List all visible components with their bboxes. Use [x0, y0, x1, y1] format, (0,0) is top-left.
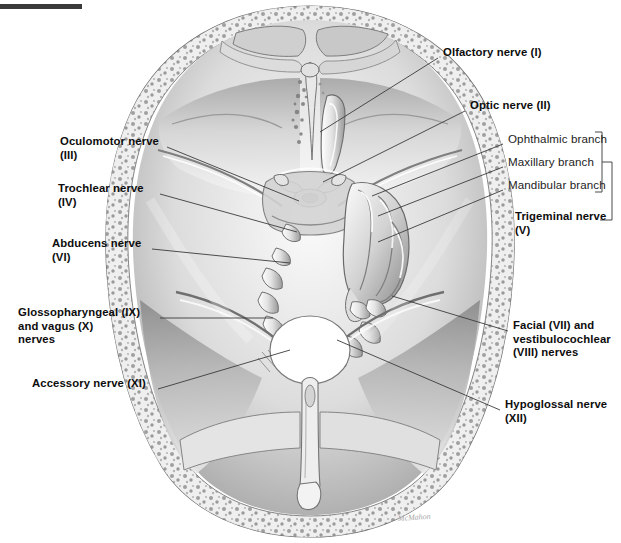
label-trochlear-nerve: Trochlear nerve (IV)	[58, 182, 144, 209]
label-ophthalmic-branch: Ophthalmic branch	[508, 132, 607, 146]
nerve-stubs-right	[326, 300, 386, 369]
leader-ophthalmic	[372, 144, 503, 196]
label-facial-vestibulocochlear-nerves: Facial (VII) and vestibulocochlear (VIII…	[513, 319, 611, 360]
olfactory-nerve-structure	[321, 95, 345, 175]
leader-facial	[392, 296, 508, 331]
foramen-magnum	[270, 316, 350, 384]
label-oculomotor-nerve: Oculomotor nerve (III)	[60, 135, 159, 162]
label-olfactory-nerve: Olfactory nerve (I)	[443, 46, 542, 60]
leader-maxillary	[378, 167, 503, 216]
label-maxillary-branch: Maxillary branch	[508, 155, 594, 169]
sella-turcica	[263, 169, 358, 236]
artist-signature: McMahon	[397, 512, 431, 523]
leader-olfactory	[320, 58, 438, 132]
petrous-ridges	[176, 292, 444, 372]
posterior-cranial-fossa	[140, 300, 480, 474]
trigeminal-ganglion	[343, 183, 409, 322]
crista-galli-cribriform	[292, 62, 325, 160]
header-rule	[0, 4, 82, 9]
frontal-sinuses	[220, 26, 400, 74]
leader-abducens	[152, 249, 290, 263]
label-trigeminal-nerve: Trigeminal nerve (V)	[515, 210, 606, 237]
leader-lines-layer	[0, 0, 621, 543]
label-glossopharyngeal-vagus-nerves: Glossopharyngeal (IX) and vagus (X) nerv…	[18, 306, 140, 347]
leader-accessory	[158, 350, 290, 389]
leader-trochlear	[160, 194, 297, 232]
anterior-cranial-fossa	[158, 78, 462, 212]
leader-hypoglossal	[337, 340, 500, 410]
occipital-crest	[297, 378, 321, 510]
label-hypoglossal-nerve: Hypoglossal nerve (XII)	[505, 398, 607, 425]
label-abducens-nerve: Abducens nerve (VI)	[52, 237, 141, 264]
figure-canvas: McMahon Olfactory nerve (I) Optic nerve …	[0, 0, 621, 543]
label-optic-nerve: Optic nerve (II)	[470, 99, 551, 113]
nerve-stubs-left	[258, 224, 300, 361]
optic-nerve-structure	[280, 182, 340, 208]
skull-base-illustration: McMahon	[0, 0, 621, 543]
cranial-cavity	[133, 20, 487, 515]
leader-oculomotor	[167, 147, 299, 201]
label-accessory-nerve: Accessory nerve (XI)	[32, 377, 146, 391]
leader-optic	[323, 111, 465, 182]
skull-outline	[106, 6, 514, 537]
leader-mandibular	[378, 190, 503, 242]
label-mandibular-branch: Mandibular branch	[508, 178, 606, 192]
